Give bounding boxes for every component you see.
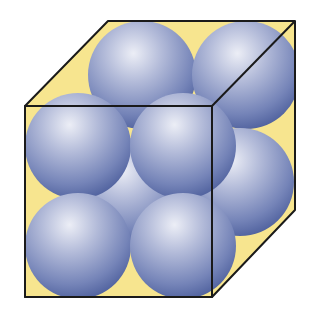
sphere-front-top-left [25,93,131,199]
sphere-front-top-right [130,93,236,199]
sphere-front-bottom-right [130,193,236,299]
unit-cell-diagram [0,0,317,317]
sphere-front-bottom-left [25,193,131,299]
